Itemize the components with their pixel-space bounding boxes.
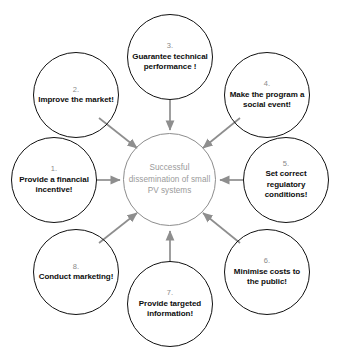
- node-7-number: 7.: [167, 288, 173, 297]
- node-4[interactable]: 4. Make the program a social event!: [224, 52, 310, 138]
- node-2-number: 2.: [73, 85, 79, 94]
- node-1-label: Provide a financial incentive!: [15, 175, 93, 196]
- center-node-label: Successful dissemination of small PV sys…: [128, 162, 212, 198]
- node-1-number: 1.: [51, 164, 57, 173]
- diagram-canvas: Successful dissemination of small PV sys…: [0, 0, 339, 355]
- node-3[interactable]: 3. Guarantee technical performance !: [127, 14, 213, 100]
- node-4-number: 4.: [264, 79, 270, 88]
- node-5-label: Set correct regulatory conditions!: [247, 169, 325, 201]
- node-2-label: Improve the market!: [37, 95, 115, 106]
- node-5-number: 5.: [283, 159, 289, 168]
- center-node: Successful dissemination of small PV sys…: [123, 133, 216, 226]
- node-3-number: 3.: [167, 41, 173, 50]
- node-6[interactable]: 6. Minimise costs to the public!: [224, 229, 310, 315]
- node-7[interactable]: 7. Provide targeted information!: [127, 261, 213, 347]
- node-8[interactable]: 8. Conduct marketing!: [33, 229, 119, 315]
- node-4-label: Make the program a social event!: [228, 90, 306, 111]
- node-1[interactable]: 1. Provide a financial incentive!: [11, 137, 97, 223]
- node-8-number: 8.: [73, 262, 79, 271]
- node-6-number: 6.: [264, 256, 270, 265]
- node-8-label: Conduct marketing!: [37, 272, 115, 283]
- node-3-label: Guarantee technical performance !: [131, 52, 209, 73]
- node-2[interactable]: 2. Improve the market!: [33, 52, 119, 138]
- arrow-from-node-6: [203, 213, 240, 243]
- arrow-from-node-8: [99, 213, 137, 243]
- node-5[interactable]: 5. Set correct regulatory conditions!: [243, 137, 329, 223]
- node-6-label: Minimise costs to the public!: [228, 267, 306, 288]
- node-7-label: Provide targeted information!: [131, 299, 209, 320]
